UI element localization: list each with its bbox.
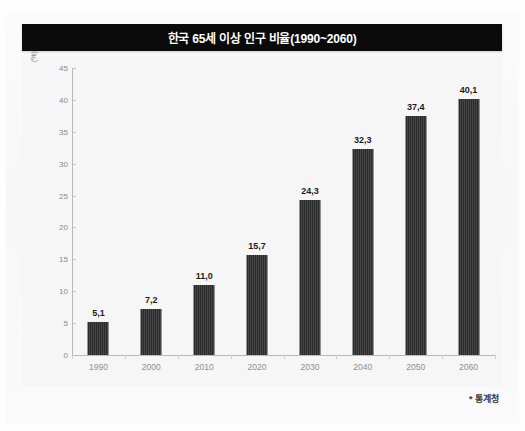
x-axis-label: 1990 <box>72 362 125 372</box>
bar[interactable] <box>88 322 109 355</box>
bar[interactable] <box>458 99 479 355</box>
x-axis-label: 2060 <box>442 362 495 372</box>
bar-value-label: 37,4 <box>407 102 425 112</box>
bar-group: 15,7 <box>231 68 284 355</box>
bar-value-label: 11,0 <box>196 271 213 281</box>
bar-group: 32,3 <box>336 68 389 355</box>
x-axis-tick <box>442 355 443 359</box>
bar[interactable] <box>299 200 320 355</box>
bar[interactable] <box>247 255 268 355</box>
bar-value-label: 32,3 <box>354 135 372 145</box>
bars-container: 5,17,211,015,724,332,337,440,1 <box>72 68 495 355</box>
page-title: 한국 65세 이상 인구 비율(1990~2060) <box>168 29 357 46</box>
x-axis-tick <box>125 355 126 359</box>
y-axis-tick-label: 35 <box>44 128 68 137</box>
bar-group: 11,0 <box>178 68 231 355</box>
y-axis-tick-label: 40 <box>44 96 68 105</box>
x-axis-label: 2050 <box>389 362 442 372</box>
bar-group: 37,4 <box>389 68 442 355</box>
x-axis-tick <box>72 355 73 359</box>
y-axis-unit-label: (%) <box>30 51 37 62</box>
bar-value-label: 7,2 <box>145 295 158 305</box>
y-axis-tick-label: 25 <box>44 192 68 201</box>
bar[interactable] <box>352 149 373 355</box>
y-axis-tick-label: 10 <box>44 287 68 296</box>
bar[interactable] <box>405 116 426 355</box>
x-axis-tick <box>284 355 285 359</box>
bar-value-label: 24,3 <box>301 186 319 196</box>
bar-group: 40,1 <box>442 68 495 355</box>
bar-group: 24,3 <box>284 68 337 355</box>
bar-value-label: 5,1 <box>92 308 105 318</box>
y-axis-tick-label: 5 <box>44 319 68 328</box>
y-axis-tick-label: 20 <box>44 223 68 232</box>
x-axis-tick <box>336 355 337 359</box>
plot-area: (%) 051015202530354045 5,17,211,015,724,… <box>22 56 502 386</box>
y-axis-tick-label: 0 <box>44 351 68 360</box>
chart-title-bar: 한국 65세 이상 인구 비율(1990~2060) <box>22 24 502 51</box>
chart-figure: 한국 65세 이상 인구 비율(1990~2060) (%) 051015202… <box>0 0 525 431</box>
bar-value-label: 15,7 <box>248 241 266 251</box>
x-axis-label: 2030 <box>284 362 337 372</box>
bar-value-label: 40,1 <box>460 85 478 95</box>
x-axis-tick <box>495 355 496 359</box>
x-axis-tick <box>389 355 390 359</box>
y-axis-tick-label: 15 <box>44 255 68 264</box>
x-axis-label: 2010 <box>178 362 231 372</box>
bar[interactable] <box>141 309 162 355</box>
bar-group: 7,2 <box>125 68 178 355</box>
bar[interactable] <box>194 285 215 355</box>
y-axis-tick-label: 30 <box>44 160 68 169</box>
bar-group: 5,1 <box>72 68 125 355</box>
x-axis-tick <box>231 355 232 359</box>
x-axis-label: 2040 <box>336 362 389 372</box>
x-axis-label: 2020 <box>231 362 284 372</box>
x-axis-label: 2000 <box>125 362 178 372</box>
source-note: * 통계청 <box>469 392 499 405</box>
y-axis-tick-label: 45 <box>44 64 68 73</box>
x-axis-tick <box>178 355 179 359</box>
